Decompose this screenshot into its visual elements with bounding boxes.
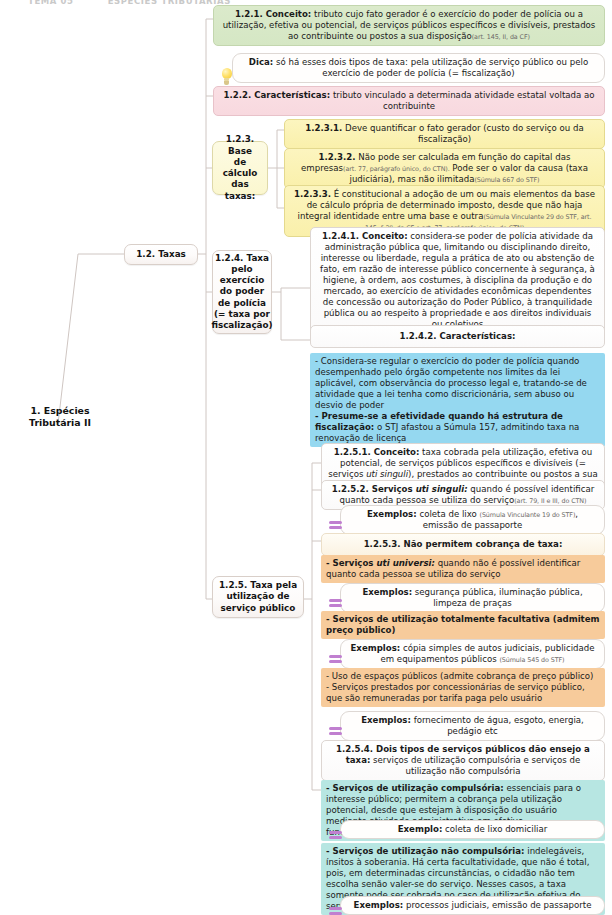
node-espacos-publicos[interactable]: - Uso de espaços públicos (admite cobran…	[321, 668, 605, 707]
node-1-2-3-1[interactable]: 1.2.3.1. Deve quantificar o fato gerador…	[284, 119, 605, 149]
exemplos-facultativa-bubble: Exemplos: cópia simples de autos judicia…	[340, 639, 605, 669]
espacos-line2: - Serviços prestados por concessionárias…	[326, 682, 585, 703]
node-1-2-3-3-num: 1.2.3.3.	[294, 189, 331, 199]
branch-node-taxas[interactable]: 1.2. Taxas	[124, 244, 198, 265]
node-uti-universi[interactable]: - Serviços uti universi: quando não é po…	[321, 555, 605, 583]
node-1-2-3-2[interactable]: 1.2.3.2. Não pode ser calculada em funçã…	[284, 148, 605, 189]
node-1-2-4-1-num: 1.2.4.1. Conceito:	[322, 231, 408, 241]
exemplos-uti-singuli-cite: (Súmula Vinculante 19 do STF)	[480, 511, 576, 519]
dica-text: só há esses dois tipos de taxa: pela uti…	[273, 57, 588, 78]
facultativa-num: - Serviços de utilização totalmente facu…	[326, 614, 600, 635]
node-1-2-4-2-num: 1.2.4.2. Características:	[400, 331, 516, 341]
callout-exemplos-espacos[interactable]: Exemplos: fornecimento de água, esgoto, …	[321, 711, 605, 741]
exemplos-espacos-bubble: Exemplos: fornecimento de água, esgoto, …	[340, 711, 605, 741]
callout-dica[interactable]: Dica: só há esses dois tipos de taxa: pe…	[213, 53, 605, 83]
branch-label-base-calculo: 1.2.3. Base de cálculo das taxas:	[218, 134, 262, 202]
node-1-2-3-2-cite2: (Súmula 667 do STF)	[474, 176, 539, 184]
node-1-2-5-1-italic: uti singuli	[366, 469, 408, 479]
node-1-2-1-conceito[interactable]: 1.2.1. Conceito: tributo cujo fato gerad…	[213, 5, 605, 46]
node-1-2-4-1-text: considera-se poder de polícia atividade …	[320, 231, 595, 329]
dica-label: Dica:	[249, 57, 273, 67]
page-header-left: TEMA 05	[28, 0, 74, 6]
callout-exemplos-uti-universi[interactable]: Exemplos: segurança pública, iluminação …	[321, 583, 605, 613]
exemplos-nao-compulsoria-bubble: Exemplos: processos judiciais, emissão d…	[340, 896, 605, 915]
node-facultativa[interactable]: - Serviços de utilização totalmente facu…	[321, 611, 605, 639]
node-1-2-4-2-body[interactable]: - Considera-se regular o exercício do po…	[310, 353, 605, 447]
node-1-2-3-1-text: Deve quantificar o fato gerador (custo d…	[342, 123, 583, 144]
node-1-2-3-2-num: 1.2.3.2.	[319, 152, 356, 162]
node-1-2-2-num: 1.2.2. Características:	[223, 90, 330, 100]
page-header-right: ESPÉCIES TRIBUTÁRIAS	[108, 0, 231, 6]
exemplos-uti-singuli-label: Exemplos:	[367, 509, 417, 519]
exemplos-uti-universi-label: Exemplos:	[362, 587, 412, 597]
exemplos-uti-singuli-text: coleta de lixo	[417, 509, 480, 519]
branch-node-poder-policia[interactable]: 1.2.4. Taxa pelo exercício do poder de p…	[212, 250, 272, 334]
node-1-2-3-2-cite: (art. 77, parágrafo único, do CTN).	[343, 165, 450, 173]
node-1-2-5-2-cite: (art. 79, II e III, do CTN)	[514, 497, 586, 505]
uti-universi-italic: uti universi:	[376, 558, 435, 568]
exemplos-facultativa-cite: (Súmula 545 do STF)	[499, 656, 564, 664]
branch-label-poder-policia: 1.2.4. Taxa pelo exercício do poder de p…	[211, 253, 272, 332]
branch-node-base-calculo[interactable]: 1.2.3. Base de cálculo das taxas:	[212, 141, 268, 195]
node-1-2-5-4[interactable]: 1.2.5.4. Dois tipos de serviços públicos…	[321, 740, 605, 781]
node-1-2-2-text: tributo vinculado a determinada atividad…	[330, 90, 594, 111]
exemplos-uti-singuli-bubble: Exemplos: coleta de lixo (Súmula Vincula…	[340, 505, 605, 535]
node-1-2-2-caracteristicas[interactable]: 1.2.2. Características: tributo vinculad…	[213, 86, 605, 116]
node-1-2-4-2-caracteristicas[interactable]: 1.2.4.2. Características:	[310, 325, 605, 348]
exemplos-nao-compulsoria-label: Exemplos:	[354, 900, 404, 910]
node-1-2-5-2-italic: uti singuli:	[416, 484, 468, 494]
exemplos-espacos-label: Exemplos:	[361, 715, 411, 725]
exemplos-uti-universi-bubble: Exemplos: segurança pública, iluminação …	[340, 583, 605, 613]
node-1-2-1-num: 1.2.1. Conceito:	[235, 9, 311, 19]
callout-exemplos-uti-singuli[interactable]: Exemplos: coleta de lixo (Súmula Vincula…	[321, 505, 605, 535]
compulsoria-num: - Serviços de utilização compulsória:	[326, 783, 504, 793]
exemplo-compulsoria-label: Exemplo:	[398, 824, 443, 834]
exemplos-facultativa-label: Exemplos:	[351, 643, 401, 653]
node-1-2-3-1-num: 1.2.3.1.	[305, 123, 342, 133]
exemplos-espacos-text: fornecimento de água, esgoto, energia, p…	[411, 715, 584, 736]
exemplo-compulsoria-bubble: Exemplo: coleta de lixo domiciliar	[340, 820, 605, 839]
node-1-2-1-cite: (art. 145, II, da CF)	[472, 33, 530, 41]
node-1-2-4-2-line1: - Considera-se regular o exercício do po…	[315, 356, 587, 410]
exemplos-nao-compulsoria-text: processos judiciais, emissão de passapor…	[403, 900, 591, 910]
callout-exemplo-compulsoria[interactable]: Exemplo: coleta de lixo domiciliar	[321, 820, 605, 839]
node-1-2-5-3-num: 1.2.5.3. Não permitem cobrança de taxa:	[364, 539, 563, 549]
node-1-2-5-1-num: 1.2.5.1. Conceito:	[334, 447, 420, 457]
nao-compulsoria-num: - Serviços de utilização não compulsória…	[326, 846, 525, 856]
node-1-2-5-4-text: serviços de utilização compulsória e ser…	[370, 755, 580, 776]
uti-universi-num: - Serviços	[326, 558, 376, 568]
branch-label-servico-publico: 1.2.5. Taxa pela utilização de serviço p…	[219, 580, 297, 614]
callout-exemplos-facultativa[interactable]: Exemplos: cópia simples de autos judicia…	[321, 639, 605, 669]
node-1-2-5-2-num: 1.2.5.2. Serviços	[332, 484, 416, 494]
root-node: 1. Espécies Tributária II	[8, 405, 112, 429]
branch-label-taxas: 1.2. Taxas	[136, 249, 186, 260]
espacos-line1: - Uso de espaços públicos (admite cobran…	[326, 671, 593, 681]
node-1-2-5-3[interactable]: 1.2.5.3. Não permitem cobrança de taxa:	[321, 533, 605, 556]
branch-node-servico-publico[interactable]: 1.2.5. Taxa pela utilização de serviço p…	[212, 576, 304, 618]
callout-exemplos-nao-compulsoria[interactable]: Exemplos: processos judiciais, emissão d…	[321, 896, 605, 915]
exemplos-uti-universi-text: segurança pública, iluminação pública, l…	[412, 587, 582, 608]
exemplo-compulsoria-text: coleta de lixo domiciliar	[442, 824, 547, 834]
dica-bubble: Dica: só há esses dois tipos de taxa: pe…	[232, 53, 605, 83]
